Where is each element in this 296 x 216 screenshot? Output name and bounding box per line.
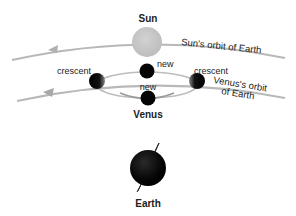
venus-phases-diagram: Sun Sun's orbit of Earth new crescent cr… (0, 0, 296, 216)
new-label-top: new (157, 59, 174, 69)
venus-new-top-icon (140, 64, 155, 79)
venus-crescent-right-icon (189, 73, 205, 89)
sun-icon (132, 27, 162, 57)
sun-orbit-label: Sun's orbit of Earth (181, 36, 262, 55)
venus-crescent-left-icon (89, 73, 105, 89)
earth-label: Earth (135, 198, 161, 209)
venus-new-bottom-icon (141, 91, 156, 106)
new-label-bottom: new (140, 82, 157, 92)
venus-label: Venus (133, 109, 163, 120)
sun-label: Sun (139, 13, 158, 24)
crescent-label-left: crescent (57, 66, 92, 76)
earth-icon (130, 143, 166, 192)
